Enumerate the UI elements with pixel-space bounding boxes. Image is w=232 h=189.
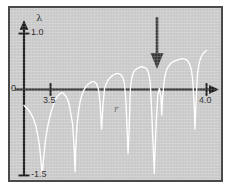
y-tick-label-zero: 0 xyxy=(11,84,16,93)
plot-frame: λ 1.0 0 -1.5 3.5 4.0 r xyxy=(8,6,223,182)
lyapunov-exponent-figure: λ 1.0 0 -1.5 3.5 4.0 r xyxy=(0,0,232,189)
x-axis-label: r xyxy=(114,105,118,114)
y-tick-label-bottom: -1.5 xyxy=(31,170,47,179)
y-axis-label: λ xyxy=(36,13,42,22)
y-tick-label-top: 1.0 xyxy=(31,28,44,37)
y-axis xyxy=(19,20,30,176)
x-tick-label-left: 3.5 xyxy=(43,96,56,105)
period-3-window-arrow-icon xyxy=(151,17,164,69)
x-tick-label-right: 4.0 xyxy=(199,96,212,105)
